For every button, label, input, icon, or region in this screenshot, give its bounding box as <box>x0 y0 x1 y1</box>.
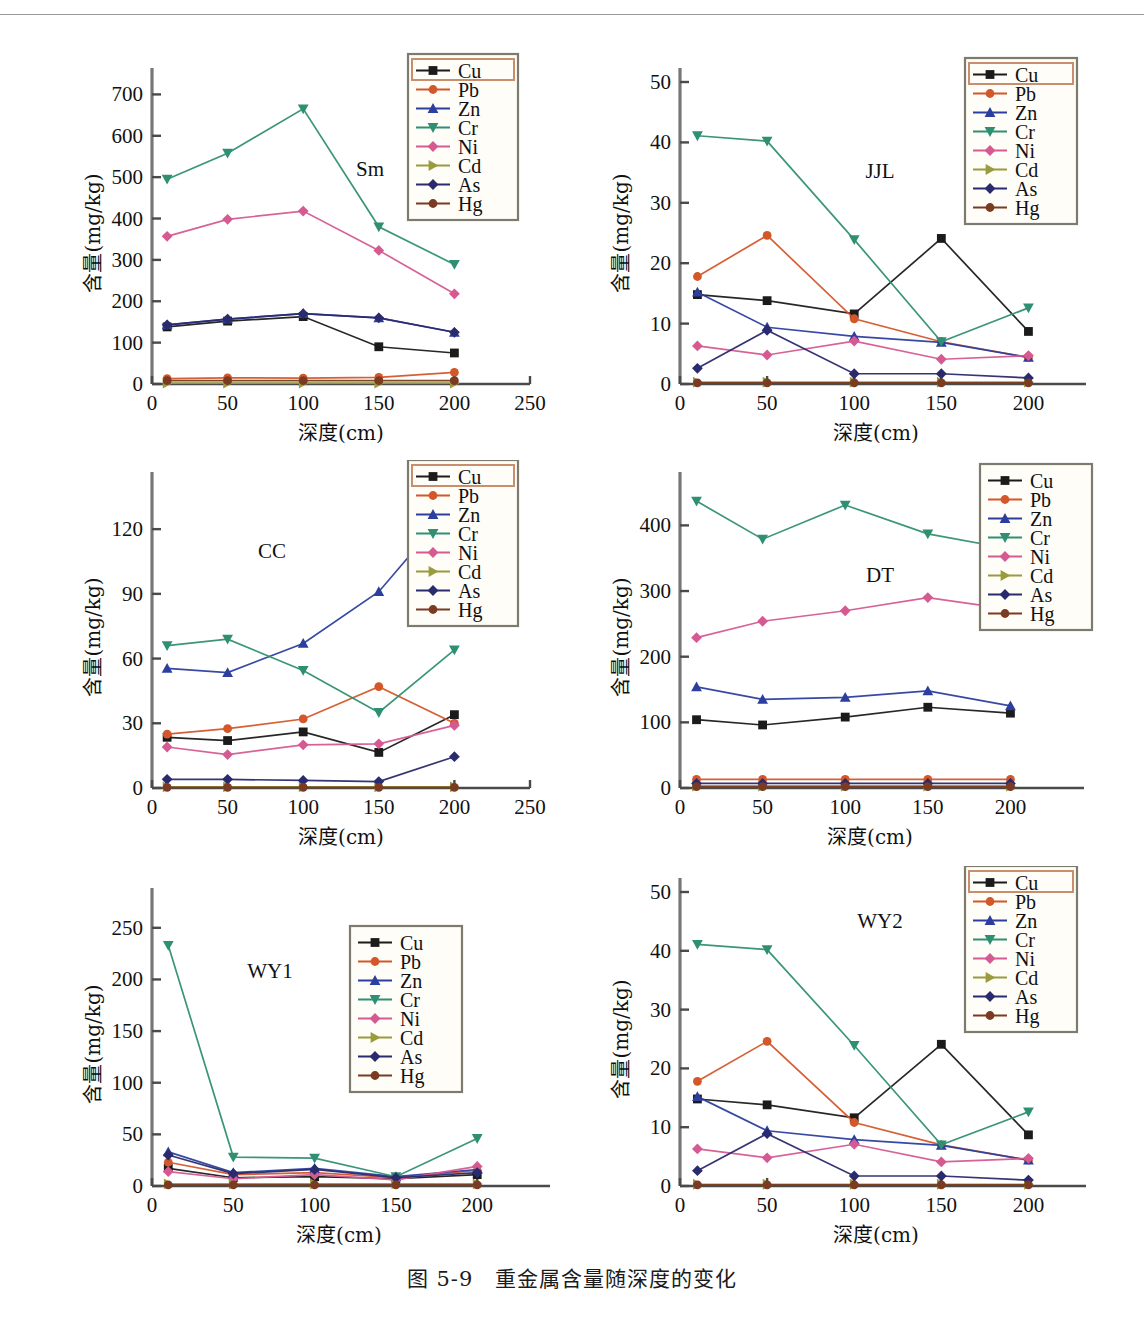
data-point <box>223 736 232 745</box>
series-line <box>167 687 454 734</box>
data-point <box>693 378 702 387</box>
series-layer <box>691 497 1016 792</box>
data-point <box>162 175 173 185</box>
data-point <box>450 783 459 792</box>
x-axis-title: 深度(cm) <box>298 825 384 849</box>
data-point <box>762 1152 773 1163</box>
panel-title: WY2 <box>857 909 903 933</box>
data-point <box>850 314 859 323</box>
data-point <box>450 368 459 377</box>
series-cu <box>163 710 459 757</box>
y-tick-label: 40 <box>650 130 671 154</box>
x-tick-label: 100 <box>287 391 319 415</box>
data-point <box>374 342 383 351</box>
x-tick-label: 200 <box>995 795 1027 819</box>
legend-marker-cu <box>429 472 438 481</box>
data-point <box>758 721 767 730</box>
y-tick-label: 20 <box>650 1056 671 1080</box>
x-tick-label: 150 <box>363 795 395 819</box>
data-point <box>693 272 702 281</box>
x-tick-label: 50 <box>223 1193 244 1217</box>
data-point <box>222 149 233 159</box>
series-line <box>697 341 1028 359</box>
data-point <box>1024 327 1033 336</box>
data-point <box>691 681 702 691</box>
series-hg <box>164 1181 482 1190</box>
series-pb <box>163 682 459 738</box>
y-tick-label: 100 <box>112 331 144 355</box>
data-point <box>450 376 459 385</box>
x-tick-label: 0 <box>147 1193 158 1217</box>
chart-wy1: 050100150200250050100150200深度(cm)含量(mg/k… <box>40 866 560 1258</box>
legend-label: Hg <box>458 599 482 622</box>
legend: CuPbZnCrNiCdAsHg <box>408 460 518 626</box>
panel-title: CC <box>258 539 286 563</box>
y-tick-label: 50 <box>650 70 671 94</box>
y-tick-label: 120 <box>112 517 144 541</box>
panel-title: Sm <box>356 157 384 181</box>
data-point <box>850 378 859 387</box>
data-point <box>373 222 384 232</box>
series-line <box>697 235 1028 357</box>
data-point <box>691 632 702 643</box>
figure-panel-grid: 0100200300400500600700050100150200250深度(… <box>0 28 1144 1258</box>
y-tick-label: 300 <box>640 579 672 603</box>
x-tick-label: 150 <box>926 391 958 415</box>
data-point <box>757 616 768 627</box>
data-point <box>936 1156 947 1167</box>
legend-label: Hg <box>1030 603 1054 626</box>
data-point <box>937 378 946 387</box>
series-zn <box>691 681 1016 710</box>
chart-panel-wy2: 01020304050050100150200深度(cm)含量(mg/kg)WY… <box>580 866 1120 1258</box>
data-point <box>841 782 850 791</box>
x-tick-label: 150 <box>912 795 944 819</box>
data-point <box>298 104 309 114</box>
legend: CuPbZnCrNiCdAsHg <box>350 926 462 1092</box>
legend-marker-pb <box>429 85 438 94</box>
data-point <box>472 1134 483 1144</box>
y-tick-label: 0 <box>661 372 672 396</box>
legend-marker-hg <box>371 1071 380 1080</box>
chart-panel-cc: 0306090120050100150200250深度(cm)含量(mg/kg)… <box>40 460 560 860</box>
series-line <box>697 598 1011 638</box>
data-point <box>1006 782 1015 791</box>
x-tick-label: 200 <box>1013 391 1045 415</box>
x-tick-label: 150 <box>380 1193 412 1217</box>
data-point <box>1024 1130 1033 1139</box>
x-tick-label: 150 <box>363 391 395 415</box>
series-cr <box>162 635 460 718</box>
x-tick-label: 200 <box>1013 1193 1045 1217</box>
data-point <box>692 363 703 374</box>
y-tick-label: 400 <box>640 513 672 537</box>
data-point <box>762 1128 773 1139</box>
legend-marker-hg <box>429 605 438 614</box>
data-point <box>923 782 932 791</box>
x-tick-label: 0 <box>675 1193 686 1217</box>
y-axis-title: 含量(mg/kg) <box>609 173 633 292</box>
chart-wy2: 01020304050050100150200深度(cm)含量(mg/kg)WY… <box>580 866 1120 1258</box>
series-line <box>167 715 454 753</box>
series-hg <box>693 378 1033 387</box>
legend-marker-pb <box>371 957 380 966</box>
y-axis-ticks: 01020304050 <box>650 70 689 396</box>
data-point <box>299 715 308 724</box>
series-as <box>692 325 1034 384</box>
y-tick-label: 600 <box>112 124 144 148</box>
data-point <box>163 376 172 385</box>
y-axis-title: 含量(mg/kg) <box>609 577 633 696</box>
legend-marker-hg <box>986 1011 995 1020</box>
legend-marker-pb <box>1001 495 1010 504</box>
data-point <box>449 288 460 299</box>
legend-label: Hg <box>400 1065 424 1088</box>
legend-marker-cu <box>1001 476 1010 485</box>
y-tick-label: 150 <box>112 1019 144 1043</box>
y-tick-label: 30 <box>122 711 143 735</box>
y-tick-label: 250 <box>112 916 144 940</box>
data-point <box>298 666 309 676</box>
data-point <box>692 1165 703 1176</box>
x-tick-label: 200 <box>439 795 471 819</box>
data-point <box>763 1100 772 1109</box>
data-point <box>840 605 851 616</box>
data-point <box>373 738 384 749</box>
panel-title: DT <box>866 563 894 587</box>
